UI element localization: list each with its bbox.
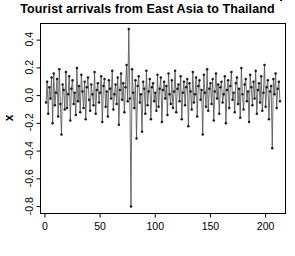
data-point <box>68 75 71 78</box>
data-point <box>64 108 67 111</box>
data-point <box>211 78 214 81</box>
data-point <box>278 81 281 84</box>
data-point <box>103 78 106 81</box>
data-point <box>125 64 128 67</box>
data-point <box>105 90 108 93</box>
data-point <box>158 87 161 90</box>
data-point <box>245 78 248 81</box>
data-point <box>71 79 74 82</box>
data-point <box>65 71 68 74</box>
data-point <box>49 97 52 100</box>
data-point <box>246 100 249 103</box>
data-point <box>169 103 172 106</box>
data-point <box>207 110 210 113</box>
data-point <box>261 110 264 113</box>
data-point <box>209 82 212 85</box>
data-point <box>231 99 234 102</box>
data-point <box>102 85 105 88</box>
data-point <box>57 115 60 118</box>
data-point <box>186 78 189 81</box>
data-point <box>62 89 65 92</box>
data-point <box>58 68 61 71</box>
data-point <box>93 71 96 74</box>
data-point <box>224 75 227 78</box>
y-tick-label: -0.6 <box>23 163 34 193</box>
data-point <box>217 83 220 86</box>
data-point <box>54 104 57 107</box>
data-point <box>50 76 53 79</box>
data-point <box>184 104 187 107</box>
data-point <box>219 86 222 89</box>
plot-canvas <box>0 0 295 256</box>
data-point <box>99 92 102 95</box>
data-point <box>250 86 253 89</box>
data-point <box>229 85 232 88</box>
data-point <box>143 87 146 90</box>
data-point <box>208 87 211 90</box>
data-point <box>118 123 121 126</box>
data-point <box>79 111 82 114</box>
data-point <box>123 111 126 114</box>
data-point <box>161 121 164 124</box>
data-point <box>195 76 198 79</box>
data-point <box>235 82 238 85</box>
data-point <box>78 85 81 88</box>
data-point <box>153 100 156 103</box>
data-point <box>214 90 217 93</box>
y-tick-label: 0.4 <box>23 24 34 54</box>
data-point <box>120 72 123 75</box>
data-point <box>61 83 64 86</box>
data-point <box>150 118 153 121</box>
data-point <box>101 121 104 124</box>
data-point <box>226 89 229 92</box>
data-point <box>258 82 261 85</box>
data-point <box>206 68 209 71</box>
data-point <box>121 99 124 102</box>
data-point <box>51 122 54 125</box>
y-tick-label: -0.2 <box>23 108 34 138</box>
data-point <box>225 122 228 125</box>
data-point <box>151 86 154 89</box>
data-point <box>265 86 268 89</box>
y-tick-label: -0.8 <box>23 191 34 221</box>
data-point <box>264 105 267 108</box>
data-point <box>55 92 58 95</box>
data-point <box>155 110 158 113</box>
data-point <box>80 74 83 77</box>
data-point <box>257 89 260 92</box>
x-axis-ticks <box>45 214 266 218</box>
data-point <box>280 0 283 1</box>
data-point <box>274 72 277 75</box>
x-tick-label: 150 <box>190 221 230 232</box>
data-point <box>154 92 157 95</box>
x-tick-label: 200 <box>246 221 286 232</box>
data-point <box>259 101 262 104</box>
data-point <box>254 69 257 72</box>
data-point <box>247 90 250 93</box>
data-point <box>162 89 165 92</box>
data-point <box>124 86 127 89</box>
data-point <box>130 205 133 208</box>
data-point <box>232 92 235 95</box>
data-point <box>233 111 236 114</box>
data-point <box>222 93 225 96</box>
data-point <box>135 137 138 140</box>
data-point <box>131 68 134 71</box>
data-point <box>273 93 276 96</box>
data-point <box>147 90 150 93</box>
data-series <box>45 0 283 208</box>
data-point <box>193 101 196 104</box>
data-point <box>98 101 101 104</box>
data-point <box>172 107 175 110</box>
data-point <box>236 76 239 79</box>
data-point <box>92 104 95 107</box>
x-tick-label: 100 <box>135 221 175 232</box>
data-point <box>77 100 80 103</box>
data-point <box>270 85 273 88</box>
data-point <box>279 100 282 103</box>
data-point <box>157 105 160 108</box>
data-point <box>156 74 159 77</box>
data-point <box>277 87 280 90</box>
data-point <box>167 72 170 75</box>
data-point <box>177 83 180 86</box>
